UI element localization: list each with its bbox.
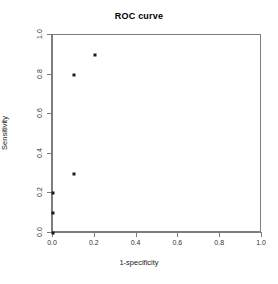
x-axis-title: 1-specificity xyxy=(0,258,278,267)
chart-title: ROC curve xyxy=(0,11,278,21)
x-axis-tick-label: 1.0 xyxy=(256,239,266,246)
data-point xyxy=(52,212,55,215)
x-axis-tick-label: 0.0 xyxy=(47,239,57,246)
y-axis-tick-label: 0.4 xyxy=(36,146,43,160)
roc-curve-figure: ROC curve 0.00.20.40.60.81.00.00.20.40.6… xyxy=(0,0,278,284)
y-axis-tick xyxy=(47,232,51,233)
plot-panel xyxy=(52,34,261,232)
y-axis-tick xyxy=(47,34,51,35)
y-axis-tick xyxy=(47,192,51,193)
x-axis-tick-label: 0.2 xyxy=(89,239,99,246)
y-axis-tick-label: 0.2 xyxy=(36,185,43,199)
y-axis-tick xyxy=(47,113,51,114)
x-axis-tick xyxy=(177,233,178,237)
y-axis-tick xyxy=(47,74,51,75)
y-axis-title: Sensitivity xyxy=(0,116,9,150)
data-point xyxy=(72,172,75,175)
x-axis-tick-label: 0.4 xyxy=(131,239,141,246)
x-axis-line xyxy=(52,232,262,233)
x-axis-tick xyxy=(261,233,262,237)
x-axis-tick xyxy=(219,233,220,237)
y-axis-tick-label: 0.0 xyxy=(36,225,43,239)
x-axis-tick-label: 0.8 xyxy=(214,239,224,246)
x-axis-tick xyxy=(136,233,137,237)
y-axis-tick-label: 0.8 xyxy=(36,67,43,81)
y-axis-tick-label: 1.0 xyxy=(36,27,43,41)
data-point xyxy=(52,232,55,235)
y-axis-tick-label: 0.6 xyxy=(36,106,43,120)
data-point xyxy=(52,192,55,195)
data-point xyxy=(72,73,75,76)
data-point xyxy=(93,53,96,56)
x-axis-tick xyxy=(94,233,95,237)
x-axis-tick-label: 0.6 xyxy=(173,239,183,246)
y-axis-tick xyxy=(47,153,51,154)
